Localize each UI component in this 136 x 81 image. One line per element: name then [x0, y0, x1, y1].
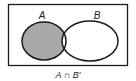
diagram-caption: A ∩ B′	[55, 70, 81, 80]
set-a-label: A	[38, 10, 46, 21]
set-b-ellipse	[62, 21, 118, 61]
venn-diagram: A B A ∩ B′	[0, 0, 136, 81]
set-b-label: B	[94, 10, 101, 21]
